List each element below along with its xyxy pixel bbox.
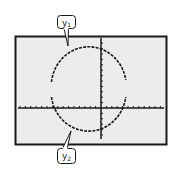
calculator-graph-figure: y1 y2 [0,0,179,171]
graph-screen [16,37,167,145]
